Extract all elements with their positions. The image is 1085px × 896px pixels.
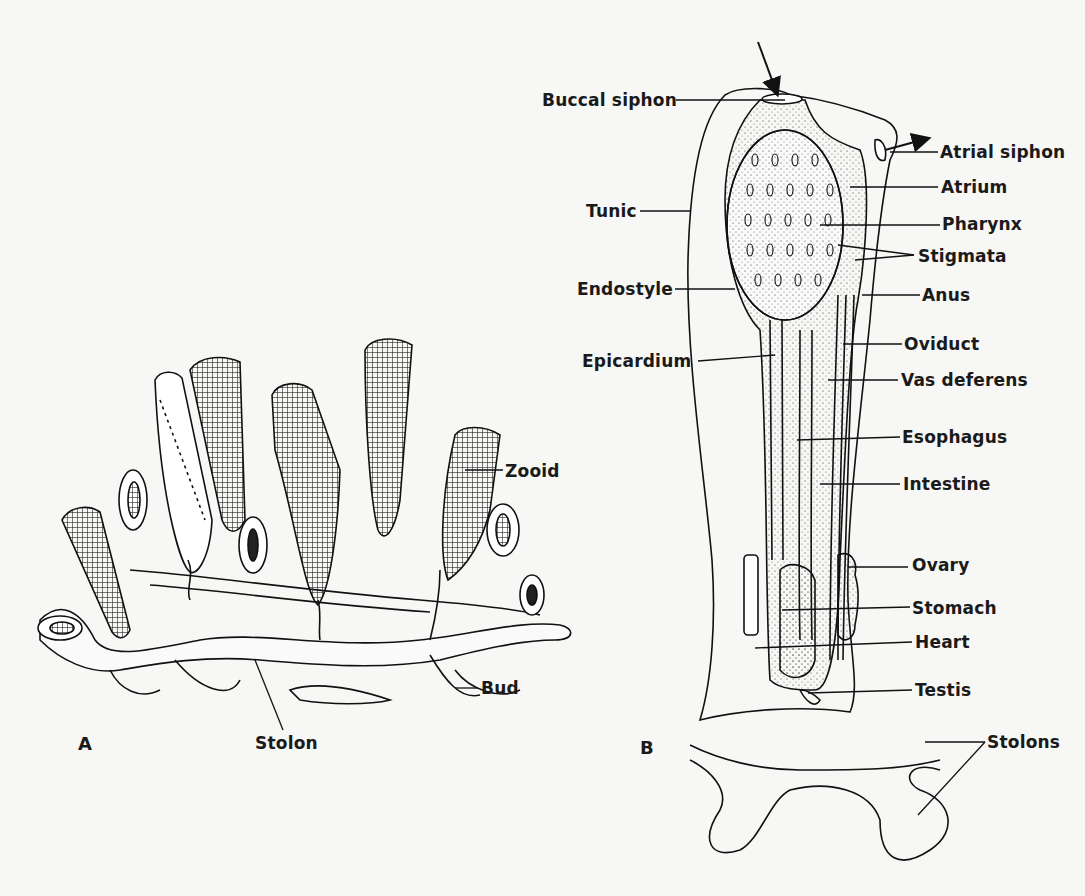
label-esophagus: Esophagus: [902, 427, 1007, 447]
label-pharynx: Pharynx: [942, 214, 1022, 234]
label-tunic: Tunic: [586, 201, 637, 221]
label-endostyle: Endostyle: [577, 279, 673, 299]
label-stolons: Stolons: [987, 732, 1060, 752]
label-atrium: Atrium: [941, 177, 1008, 197]
label-bud: Bud: [481, 678, 519, 698]
label-testis: Testis: [915, 680, 971, 700]
label-oviduct: Oviduct: [904, 334, 979, 354]
panel-letter-a: A: [78, 733, 92, 754]
label-buccal-siphon: Buccal siphon: [542, 90, 677, 110]
label-atrial-siphon: Atrial siphon: [940, 142, 1065, 162]
label-zooid: Zooid: [505, 461, 560, 481]
label-intestine: Intestine: [903, 474, 991, 494]
label-epicardium: Epicardium: [582, 351, 691, 371]
label-stomach: Stomach: [912, 598, 997, 618]
colony-drawing: [38, 339, 571, 704]
label-anus: Anus: [922, 285, 970, 305]
label-stolon: Stolon: [255, 733, 318, 753]
illustration: [0, 0, 1085, 896]
label-heart: Heart: [915, 632, 970, 652]
label-vas-deferens: Vas deferens: [901, 370, 1028, 390]
panel-letter-b: B: [640, 737, 654, 758]
label-stigmata: Stigmata: [918, 246, 1007, 266]
label-ovary: Ovary: [912, 555, 969, 575]
